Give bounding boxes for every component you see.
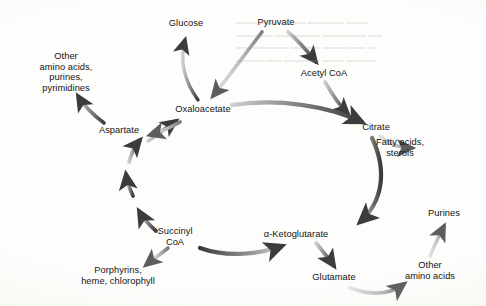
node-label-porphyrins: Porphyrins, heme, chlorophyll <box>81 265 155 286</box>
node-label-fatty_acids: Fatty acids, sterols <box>376 137 424 158</box>
node-label-other_aa_pur: Other amino acids, purines, pyrimidines <box>40 51 93 93</box>
node-label-succinyl_coa: Succinyl CoA <box>157 226 192 247</box>
node-label-purines: Purines <box>428 208 460 219</box>
node-label-other_aa: Other amino acids <box>405 260 455 281</box>
node-label-oxaloacetate: Oxaloacetate <box>175 104 230 115</box>
edge-cycle-arc-3 <box>129 140 140 162</box>
node-label-glucose: Glucose <box>169 18 203 29</box>
edge-cycle-arc-2 <box>126 174 133 196</box>
node-label-pyruvate: Pyruvate <box>257 17 294 28</box>
edge-pyruvate-to-acetyl-coa <box>288 32 316 62</box>
node-label-a_ketoglut: α-Ketoglutarate <box>264 229 329 240</box>
node-label-glutamate: Glutamate <box>312 272 355 283</box>
edge-alpha-ketoglutarate-to-succinyl-coa <box>200 246 282 254</box>
edge-glutamate-to-other-amino-acids <box>350 284 404 293</box>
node-label-acetyl_coa: Acetyl CoA <box>301 68 348 79</box>
edge-aspartate-to-other-amino-acids <box>78 96 104 123</box>
edge-other-amino-acids-to-purines <box>430 226 444 256</box>
node-label-aspartate: Aspartate <box>99 125 139 136</box>
edge-succinyl-coa-to-porphyrins <box>146 248 168 265</box>
edge-alpha-ketoglutarate-to-glutamate <box>316 243 334 266</box>
edge-oxaloacetate-to-aspartate <box>150 122 180 135</box>
node-label-citrate: Citrate <box>362 122 390 133</box>
edge-pyruvate-to-oxaloacetate <box>213 32 262 96</box>
edge-oxaloacetate-to-glucose <box>183 40 198 100</box>
edge-succinyl-coa-arc-1 <box>139 211 156 231</box>
